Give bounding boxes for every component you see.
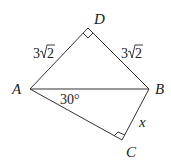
side-label-DB: 3 2 xyxy=(121,45,143,61)
side-label-CB: x xyxy=(138,114,146,130)
angle-label-BAC: 30° xyxy=(60,92,80,107)
svg-text:2: 2 xyxy=(47,46,54,61)
vertex-label-B: B xyxy=(155,81,164,97)
vertex-label-C: C xyxy=(126,144,137,160)
right-angle-marker-D xyxy=(83,33,93,38)
side-label-AD: 3 2 xyxy=(33,45,55,61)
geometry-diagram: D A B C 3 2 3 2 30° x xyxy=(0,0,171,167)
vertex-label-D: D xyxy=(93,11,105,27)
svg-text:3: 3 xyxy=(33,46,40,61)
svg-text:3: 3 xyxy=(121,46,128,61)
svg-text:2: 2 xyxy=(135,46,142,61)
vertex-label-A: A xyxy=(11,81,22,97)
right-angle-marker-C xyxy=(114,132,125,136)
